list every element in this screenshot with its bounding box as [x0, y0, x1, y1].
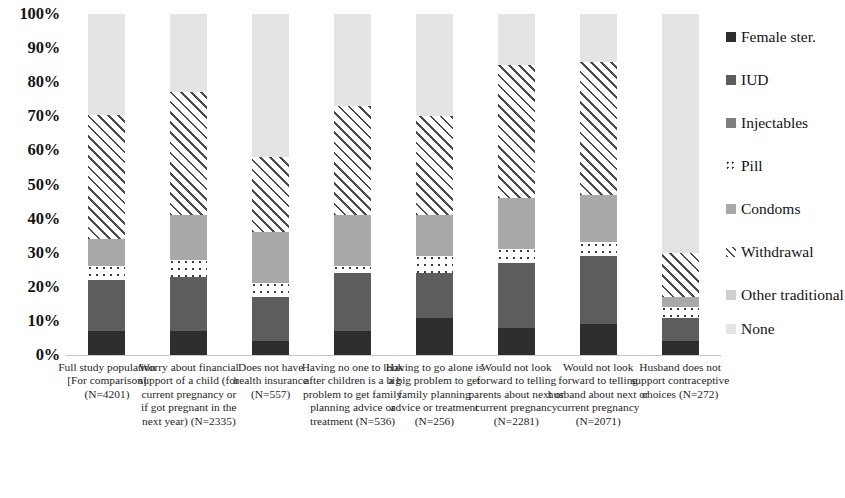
legend-swatch-iud-icon — [726, 75, 736, 85]
bar-column[interactable] — [170, 14, 207, 355]
bar-segment-none[interactable] — [252, 14, 289, 157]
legend-label: IUD — [741, 71, 769, 88]
y-axis-tick-label: 90% — [2, 40, 60, 57]
bar-segment-iud[interactable] — [498, 263, 535, 328]
bar-segment-withdrawal[interactable] — [170, 92, 207, 215]
legend-swatch-other-traditional-icon — [726, 290, 736, 300]
stacked-bar-chart: 100%90%80%70%60%50%40%30%20%10%0% Full s… — [0, 0, 845, 498]
legend-item-pill[interactable]: Pill — [726, 157, 763, 174]
bar-segment-condoms[interactable] — [498, 198, 535, 249]
bar-column[interactable] — [88, 14, 125, 355]
y-axis-tick-label: 80% — [2, 74, 60, 91]
bar-segment-condoms[interactable] — [662, 297, 699, 307]
legend-label: Withdrawal — [741, 243, 814, 260]
bar-segment-none[interactable] — [662, 14, 699, 253]
legend-swatch-condoms-icon — [726, 204, 736, 214]
legend-swatch-pill-icon — [726, 161, 736, 171]
bar-column[interactable] — [416, 14, 453, 355]
bar-segment-iud[interactable] — [88, 280, 125, 331]
bar-segment-withdrawal[interactable] — [416, 116, 453, 215]
bar-segment-pill[interactable] — [88, 266, 125, 280]
bar-segment-female-ster[interactable] — [662, 341, 699, 355]
bar-segment-pill[interactable] — [334, 266, 371, 273]
bar-segment-female-ster[interactable] — [252, 341, 289, 355]
bar-segment-pill[interactable] — [170, 260, 207, 277]
bar-segment-iud[interactable] — [580, 256, 617, 324]
y-axis-tick-label: 20% — [2, 279, 60, 296]
legend-item-none[interactable]: None — [726, 320, 775, 337]
x-axis-category-labels: Full study population [For comparison] (… — [66, 361, 721, 498]
y-axis-tick-label: 70% — [2, 108, 60, 125]
bar-column[interactable] — [580, 14, 617, 355]
chart-legend: Female ster.IUDInjectablesPillCondomsWit… — [726, 28, 845, 338]
legend-item-condoms[interactable]: Condoms — [726, 200, 800, 217]
legend-swatch-none-icon — [726, 324, 736, 334]
y-axis-tick-label: 60% — [2, 142, 60, 159]
legend-label: Injectables — [741, 114, 808, 131]
bar-segment-withdrawal[interactable] — [334, 106, 371, 215]
legend-label: Condoms — [741, 200, 800, 217]
y-axis-tick-label: 40% — [2, 211, 60, 228]
bar-segment-condoms[interactable] — [88, 239, 125, 266]
legend-swatch-injectables-icon — [726, 118, 736, 128]
bar-segment-iud[interactable] — [252, 297, 289, 341]
bar-segment-female-ster[interactable] — [416, 318, 453, 356]
bar-segment-female-ster[interactable] — [580, 324, 617, 355]
legend-item-injectables[interactable]: Injectables — [726, 114, 808, 131]
legend-item-female-ster[interactable]: Female ster. — [726, 28, 816, 45]
bar-segment-withdrawal[interactable] — [252, 157, 289, 232]
bar-segment-pill[interactable] — [252, 283, 289, 297]
bar-segment-withdrawal[interactable] — [88, 115, 125, 239]
bar-segment-female-ster[interactable] — [170, 331, 207, 355]
bar-segment-condoms[interactable] — [416, 215, 453, 256]
bar-segment-none[interactable] — [88, 14, 125, 115]
bar-segment-pill[interactable] — [662, 307, 699, 317]
bar-segment-none[interactable] — [498, 14, 535, 65]
bar-segment-female-ster[interactable] — [498, 328, 535, 355]
bar-column[interactable] — [252, 14, 289, 355]
bar-segment-iud[interactable] — [662, 318, 699, 342]
bar-column[interactable] — [662, 14, 699, 355]
bar-column[interactable] — [334, 14, 371, 355]
y-axis: 100%90%80%70%60%50%40%30%20%10%0% — [0, 0, 66, 370]
bar-segment-condoms[interactable] — [170, 215, 207, 259]
legend-swatch-female-ster-icon — [726, 32, 736, 42]
bar-segment-female-ster[interactable] — [334, 331, 371, 355]
bar-segment-iud[interactable] — [416, 273, 453, 317]
bar-segment-pill[interactable] — [498, 249, 535, 263]
legend-label: Pill — [741, 157, 763, 174]
plot-area — [66, 14, 721, 355]
bar-segment-none[interactable] — [416, 14, 453, 116]
legend-label: Other traditional — [741, 286, 844, 303]
y-axis-tick-label: 100% — [2, 6, 60, 23]
bar-segment-pill[interactable] — [416, 256, 453, 273]
y-axis-tick-label: 0% — [2, 347, 60, 364]
bar-segment-none[interactable] — [334, 14, 371, 106]
y-axis-tick-label: 10% — [2, 313, 60, 330]
bar-segment-iud[interactable] — [334, 273, 371, 331]
bar-segment-condoms[interactable] — [252, 232, 289, 283]
bar-segment-none[interactable] — [170, 14, 207, 92]
y-axis-tick-label: 30% — [2, 245, 60, 262]
bar-segment-pill[interactable] — [580, 243, 617, 257]
legend-item-iud[interactable]: IUD — [726, 71, 769, 88]
bar-segment-condoms[interactable] — [580, 195, 617, 243]
y-axis-tick-label: 50% — [2, 177, 60, 194]
legend-label: None — [741, 320, 775, 337]
bar-segment-female-ster[interactable] — [88, 331, 125, 355]
legend-label: Female ster. — [741, 28, 816, 45]
bar-segment-withdrawal[interactable] — [498, 65, 535, 198]
bar-segment-iud[interactable] — [170, 277, 207, 332]
legend-swatch-withdrawal-icon — [726, 247, 736, 257]
bar-segment-withdrawal[interactable] — [662, 253, 699, 297]
legend-item-withdrawal[interactable]: Withdrawal — [726, 243, 814, 260]
bar-segment-none[interactable] — [580, 14, 617, 62]
bar-segment-condoms[interactable] — [334, 215, 371, 266]
bar-column[interactable] — [498, 14, 535, 355]
x-axis-label: Husband does not support contraceptive c… — [630, 361, 730, 401]
axis-baseline — [66, 355, 721, 356]
bar-segment-withdrawal[interactable] — [580, 62, 617, 195]
legend-item-other-traditional[interactable]: Other traditional — [726, 286, 844, 303]
